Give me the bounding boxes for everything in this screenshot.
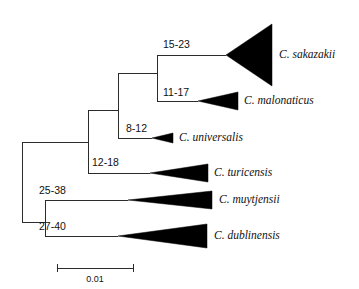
scale-bar-layer: 0.01: [57, 264, 133, 284]
clade-triangle-c-turicensis: [150, 164, 208, 182]
taxon-label-c-universalis: C. universalis: [179, 131, 243, 143]
support-label-12-18: 12-18: [92, 156, 119, 168]
clade-triangle-c-dublinensis: [118, 224, 207, 248]
support-label-27-40: 27-40: [39, 220, 66, 232]
support-label-11-17: 11-17: [163, 86, 189, 98]
clade-triangle-c-sakazakii: [226, 24, 272, 86]
taxon-label-c-sakazakii: C. sakazakii: [279, 48, 335, 60]
clade-triangle-c-malonaticus: [198, 92, 238, 110]
support-label-15-23: 15-23: [163, 38, 190, 50]
tree-svg-canvas: 15-2311-178-1212-1825-3827-40 C. sakazak…: [0, 0, 359, 289]
support-label-25-38: 25-38: [39, 184, 66, 196]
taxon-label-c-malonaticus: C. malonaticus: [244, 94, 314, 106]
support-label-8-12: 8-12: [126, 122, 147, 134]
taxon-label-c-turicensis: C. turicensis: [214, 166, 273, 178]
phylogenetic-tree-figure: 15-2311-178-1212-1825-3827-40 C. sakazak…: [0, 0, 359, 289]
branch-layer: [22, 55, 226, 236]
taxon-label-c-dublinensis: C. dublinensis: [214, 229, 280, 241]
clade-triangle-c-muytjensii: [128, 191, 212, 209]
scale-bar-label: 0.01: [86, 274, 104, 284]
taxon-label-c-muytjensii: C. muytjensii: [219, 193, 280, 206]
taxon-label-layer: C. sakazakiiC. malonaticusC. universalis…: [179, 48, 335, 241]
clade-triangle-c-universalis: [152, 133, 173, 143]
